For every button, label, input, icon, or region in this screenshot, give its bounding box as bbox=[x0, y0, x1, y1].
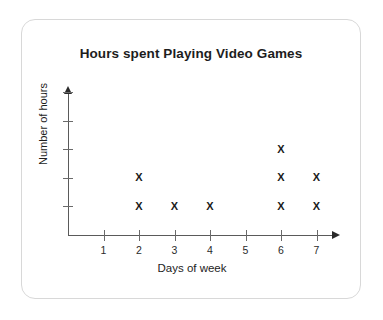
dot-plot-area: Number of hours Days of week 1234567 XXX… bbox=[22, 20, 362, 300]
y-axis-tick bbox=[63, 178, 73, 179]
x-axis-tick-label: 5 bbox=[236, 244, 256, 256]
x-axis-tick bbox=[104, 230, 105, 241]
x-axis-tick-label: 7 bbox=[307, 244, 327, 256]
y-axis-tick bbox=[63, 121, 73, 122]
x-axis-tick bbox=[210, 230, 211, 241]
data-point-marker: X bbox=[271, 144, 291, 155]
x-axis-tick-label: 1 bbox=[94, 244, 114, 256]
data-point-marker: X bbox=[307, 201, 327, 212]
x-axis-tick bbox=[175, 230, 176, 241]
x-axis-tick bbox=[246, 230, 247, 241]
x-axis-tick-label: 2 bbox=[129, 244, 149, 256]
data-point-marker: X bbox=[129, 201, 149, 212]
x-axis-arrow-icon bbox=[332, 231, 340, 239]
data-point-marker: X bbox=[165, 201, 185, 212]
data-point-marker: X bbox=[271, 201, 291, 212]
x-axis-line bbox=[68, 235, 334, 236]
x-axis-tick-label: 3 bbox=[165, 244, 185, 256]
x-axis-label: Days of week bbox=[22, 262, 362, 274]
x-axis-tick bbox=[317, 230, 318, 241]
x-axis-tick-label: 6 bbox=[271, 244, 291, 256]
x-axis-tick bbox=[281, 230, 282, 241]
y-axis-tick bbox=[63, 92, 73, 93]
y-axis-label: Number of hours bbox=[37, 69, 49, 179]
x-axis-tick-label: 4 bbox=[200, 244, 220, 256]
data-point-marker: X bbox=[200, 201, 220, 212]
data-point-marker: X bbox=[307, 172, 327, 183]
x-axis-tick bbox=[139, 230, 140, 241]
y-axis-tick bbox=[63, 206, 73, 207]
data-point-marker: X bbox=[271, 172, 291, 183]
y-axis-line bbox=[68, 93, 69, 236]
data-point-marker: X bbox=[129, 172, 149, 183]
chart-card: Hours spent Playing Video Games Number o… bbox=[21, 19, 361, 299]
y-axis-tick bbox=[63, 149, 73, 150]
